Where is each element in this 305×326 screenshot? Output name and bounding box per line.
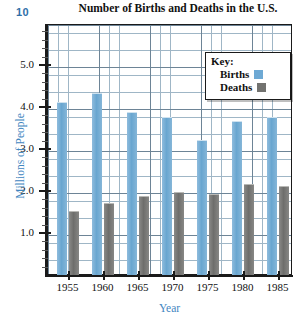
y-tick (39, 148, 51, 150)
y-minor-tick (42, 31, 48, 32)
y-minor-tick (42, 208, 48, 209)
bar-deaths (244, 184, 254, 275)
y-minor-tick (42, 124, 48, 125)
x-tick (68, 271, 70, 280)
y-minor-tick (42, 166, 48, 167)
y-minor-tick (42, 115, 48, 116)
legend-title: Key: (211, 55, 286, 68)
bar-births (162, 117, 172, 276)
y-minor-tick (42, 157, 48, 158)
x-axis (45, 275, 293, 278)
bar-deaths (279, 186, 289, 275)
x-tick-label: 1960 (83, 281, 123, 293)
bar-deaths (174, 192, 184, 275)
x-axis-title: Year (47, 302, 292, 314)
x-tick (243, 271, 245, 280)
x-tick-label: 1965 (118, 281, 158, 293)
x-tick-label: 1970 (153, 281, 193, 293)
bar-births (197, 140, 207, 275)
bar-deaths (139, 196, 149, 275)
y-minor-tick (42, 258, 48, 259)
legend-item-births: Births (220, 68, 286, 81)
y-minor-tick (42, 82, 48, 83)
x-tick (173, 271, 175, 280)
y-axis (45, 24, 48, 277)
x-tick-label: 1955 (48, 281, 88, 293)
bar-births (57, 102, 67, 275)
bar-deaths (69, 211, 79, 275)
legend: Key: Births Deaths (205, 52, 291, 100)
bar-births (127, 112, 137, 275)
legend-swatch-births-icon (254, 70, 263, 79)
y-tick (39, 64, 51, 66)
y-tick (39, 190, 51, 192)
y-minor-tick (42, 174, 48, 175)
bar-births (92, 93, 102, 275)
bar-deaths (209, 194, 219, 275)
y-minor-tick (42, 250, 48, 251)
x-tick-label: 1985 (258, 281, 298, 293)
x-tick-label: 1980 (223, 281, 263, 293)
problem-number: 10 (16, 6, 29, 18)
y-tick-label: 5.0 (0, 58, 34, 70)
y-tick (39, 106, 51, 108)
x-tick (208, 271, 210, 280)
y-minor-tick (42, 216, 48, 217)
x-tick-label: 1975 (188, 281, 228, 293)
bar-births (267, 117, 277, 276)
bar-deaths (104, 203, 114, 275)
y-minor-tick (42, 225, 48, 226)
y-axis-title: Millions of People (14, 86, 26, 226)
y-minor-tick (42, 48, 48, 49)
x-tick (138, 271, 140, 280)
y-minor-tick (42, 90, 48, 91)
legend-label-deaths: Deaths (220, 81, 252, 94)
y-minor-tick (42, 199, 48, 200)
y-minor-tick (42, 57, 48, 58)
y-minor-tick (42, 267, 48, 268)
x-tick (103, 271, 105, 280)
y-minor-tick (42, 132, 48, 133)
y-minor-tick (42, 73, 48, 74)
legend-swatch-deaths-icon (257, 83, 266, 92)
bar-births (232, 121, 242, 275)
legend-label-births: Births (220, 68, 249, 81)
chart-title: Number of Births and Deaths in the U.S. (52, 2, 304, 14)
y-minor-tick (42, 141, 48, 142)
chart-page: 10 Number of Births and Deaths in the U.… (0, 0, 305, 326)
y-minor-tick (42, 99, 48, 100)
y-tick-label: 1.0 (0, 226, 34, 238)
y-minor-tick (42, 40, 48, 41)
y-minor-tick (42, 241, 48, 242)
legend-item-deaths: Deaths (220, 81, 286, 94)
y-tick (39, 232, 51, 234)
x-tick (278, 271, 280, 280)
y-minor-tick (42, 183, 48, 184)
